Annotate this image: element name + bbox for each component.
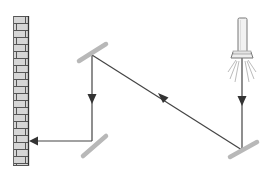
brick-wall-icon — [13, 16, 29, 166]
arrow-down-icon — [88, 94, 97, 104]
optics-diagram: Light beam reflecting off three mirrors … — [0, 0, 272, 178]
mirror-bottom-right — [230, 142, 257, 157]
beam-segment-mirror3-to-mirror1 — [92, 55, 242, 150]
light-beam — [32, 55, 242, 150]
arrow-left-icon — [29, 137, 38, 146]
arrow-down-icon — [238, 96, 247, 106]
mirror-bottom-left — [83, 136, 106, 156]
